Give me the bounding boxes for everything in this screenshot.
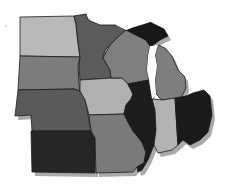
state-south-dakota[interactable]: South Dakota [18, 56, 80, 91]
state-michigan-lower[interactable]: Michigan Lower [155, 45, 186, 100]
midwest-map: North DakotaSouth DakotaNebraskaKansasMi… [0, 0, 229, 195]
state-layer: North DakotaSouth DakotaNebraskaKansasMi… [15, 14, 212, 173]
edge-mark [5, 25, 7, 27]
state-north-dakota[interactable]: North Dakota [20, 16, 80, 57]
state-indiana[interactable]: Indiana [152, 98, 178, 153]
state-nebraska[interactable]: Nebraska [15, 89, 91, 131]
map-canvas: North DakotaSouth DakotaNebraskaKansasMi… [0, 0, 229, 195]
state-kansas[interactable]: Kansas [31, 131, 95, 173]
